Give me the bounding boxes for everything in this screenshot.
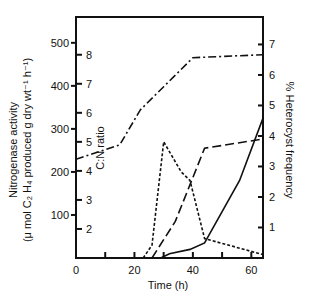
cn-axis-title: C:N ratio [94,126,106,169]
cn-tick-label: 8 [86,49,92,61]
left-axis-ticks: 100200300400500 [51,37,76,221]
cn-tick-label: 2 [86,223,92,235]
cn-ratio-axis-ticks: 2345678 [76,49,92,235]
right-tick-label: 2 [269,191,275,203]
chart: 100200300400500 2345678 1234567 0204060 … [0,0,311,307]
left-tick-label: 300 [51,123,69,135]
cn-tick-label: 5 [86,136,92,148]
cn-tick-label: 3 [86,194,92,206]
cn-tick-label: 4 [86,165,92,177]
right-axis-ticks: 1234567 [258,38,275,233]
series-short-dash [143,142,263,258]
x-tick-label: 20 [128,264,140,276]
left-axis-title-line1: Nitrogenase activity [7,102,19,198]
right-axis-title: % Heterocyst frequency [284,82,296,199]
x-tick-label: 40 [187,264,199,276]
right-tick-label: 6 [269,69,275,81]
x-tick-label: 60 [245,264,257,276]
cn-tick-label: 7 [86,78,92,90]
right-tick-label: 1 [269,221,275,233]
x-axis-title: Time (h) [148,279,189,291]
right-tick-label: 5 [269,99,275,111]
series-long-dash [152,139,263,258]
right-tick-label: 7 [269,38,275,50]
left-axis-title-line2: (μ mol C₂ H₄ produced g dry wt⁻¹ h⁻¹) [21,58,33,242]
cn-tick-label: 6 [86,107,92,119]
right-tick-label: 3 [269,160,275,172]
right-tick-label: 4 [269,130,275,142]
left-tick-label: 400 [51,80,69,92]
left-tick-label: 500 [51,37,69,49]
left-tick-label: 200 [51,166,69,178]
x-tick-label: 0 [73,264,79,276]
series-solid [161,118,263,258]
left-tick-label: 100 [51,209,69,221]
